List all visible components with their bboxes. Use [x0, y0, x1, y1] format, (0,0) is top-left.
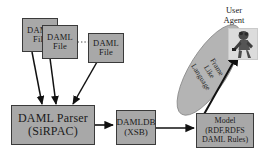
user-agent-label: User Agent	[212, 6, 256, 26]
damldb-box[interactable]: DAMLDB (XSB)	[116, 110, 156, 145]
daml-file-box-3[interactable]: DAML File	[88, 33, 124, 63]
daml-file-3-line2: File	[99, 48, 113, 57]
daml-file-2-line2: File	[53, 42, 67, 51]
daml-file-box-2[interactable]: DAML File	[42, 25, 78, 59]
daml-parser-line2: (SiRPAC)	[28, 125, 78, 138]
model-line3: DAML Rules)	[202, 135, 248, 144]
model-line2: (RDF,RDFS	[205, 126, 245, 135]
user-agent-line1: User	[226, 5, 242, 15]
model-line1: Model	[215, 116, 236, 125]
user-agent-figure-icon	[229, 29, 257, 59]
diagram-canvas: Frame Like Language DAML File DAML File …	[0, 0, 278, 161]
daml-parser-box[interactable]: DAML Parser (SiRPAC)	[11, 105, 95, 145]
arrow-model-user-agent	[203, 54, 238, 116]
damldb-line2: (XSB)	[124, 128, 148, 137]
model-box[interactable]: Model (RDF,RDFS DAML Rules)	[196, 113, 254, 148]
user-agent-line2: Agent	[224, 15, 245, 25]
user-agent-icon	[228, 28, 258, 60]
